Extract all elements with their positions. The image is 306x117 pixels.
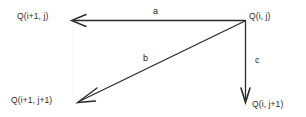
node-label-top-left: Q(i+1, j) [17, 12, 48, 21]
arrow-b-shaft [80, 21, 245, 101]
node-label-bottom-left: Q(i+1, j+1) [11, 96, 52, 105]
arrow-label-a: a [153, 7, 158, 16]
node-label-bottom-right: Q(i, j+1) [252, 100, 283, 109]
arrow-label-b: b [143, 54, 148, 63]
arrow-c [241, 20, 250, 103]
arrow-b [78, 21, 246, 103]
arrow-b-head [78, 88, 98, 103]
arrow-label-c: c [255, 56, 260, 65]
arrow-diagram: Q(i+1, j) Q(i, j) Q(i+1, j+1) Q(i, j+1) … [0, 0, 306, 117]
node-label-top-right: Q(i, j) [249, 12, 270, 21]
arrow-a [72, 15, 246, 27]
